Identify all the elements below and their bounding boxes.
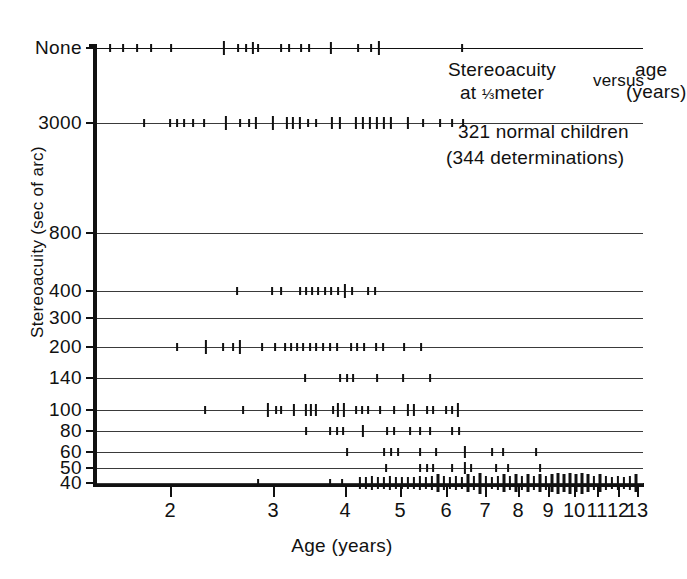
data-mark [403,343,405,351]
data-mark [629,476,631,491]
data-mark [176,119,178,127]
x-axis-tick-label: 4 [325,500,365,520]
data-mark [425,477,427,488]
data-mark [377,477,379,488]
data-mark [464,446,466,457]
data-mark [385,464,387,472]
data-mark [623,477,625,488]
data-mark [462,119,464,127]
data-mark [395,477,397,488]
x-axis-tick [273,487,275,497]
data-mark [563,474,566,492]
data-mark [337,403,339,418]
data-mark [458,427,460,435]
data-mark [386,427,388,435]
x-axis-tick-label: 5 [380,500,420,520]
data-mark [205,340,207,355]
data-mark [336,343,338,351]
data-mark [329,343,331,351]
data-mark [296,343,298,351]
data-mark [355,117,357,128]
data-mark [599,474,602,492]
data-mark [485,476,487,491]
data-mark [292,117,294,128]
chart-title-block: Stereoacuity at ⅓meter versus age (years… [430,58,680,104]
x-axis-tick [518,487,520,497]
y-axis-tick-label: 80 [60,421,82,440]
gridline-row [96,318,643,319]
data-mark [509,476,511,491]
data-mark [378,41,380,56]
x-axis-tick-label: 2 [150,500,190,520]
data-mark [429,427,431,435]
data-mark [382,343,384,351]
data-mark [461,44,463,52]
data-mark [451,119,453,127]
data-mark [362,425,364,436]
title-fraction-third: ⅓ [482,85,495,102]
data-mark [239,119,241,127]
data-mark [569,473,572,494]
data-mark [136,44,138,52]
data-mark [280,44,282,52]
data-mark [329,427,331,435]
y-axis-tick [86,122,97,124]
data-mark [143,119,145,127]
data-mark [435,448,437,456]
data-mark [443,476,445,491]
data-mark [248,119,250,127]
data-mark [451,427,453,435]
data-mark [261,343,263,351]
data-mark [315,343,317,351]
gridline-row [96,291,643,292]
y-axis-tick [86,377,97,379]
data-mark [342,427,344,435]
data-mark [497,476,499,491]
data-mark [375,343,377,351]
data-mark [293,404,295,415]
data-mark [557,473,560,494]
data-mark [290,343,292,351]
data-mark [275,406,277,414]
data-mark [344,284,346,299]
gridline-row [96,410,643,411]
data-mark [551,474,554,492]
data-mark [245,44,247,52]
data-mark [575,474,578,492]
data-mark [479,473,482,494]
data-mark [310,404,312,415]
y-axis-tick-label: 140 [49,368,82,387]
data-mark [503,474,506,492]
data-mark [359,477,361,488]
data-mark [305,287,307,295]
data-mark [426,464,428,472]
data-mark [330,287,332,295]
data-mark [426,406,428,414]
data-mark [437,474,440,492]
data-mark [407,404,409,415]
title-main-line: Stereoacuity at ⅓meter versus age (years… [430,58,680,104]
data-mark [223,41,225,56]
data-mark [593,476,595,491]
data-mark [611,477,613,488]
data-mark [390,448,392,456]
data-mark [439,119,441,127]
y-axis-tick-label: 800 [49,223,82,242]
data-mark [271,287,273,295]
data-mark [365,477,367,488]
data-mark [317,287,319,295]
data-mark [315,119,317,127]
data-mark [402,374,404,382]
y-axis-tick-label: 40 [60,473,82,492]
y-axis-tick-label: 400 [49,281,82,300]
data-mark [383,477,385,488]
data-mark [422,119,424,127]
data-mark [272,116,274,131]
data-mark [491,477,493,488]
data-mark [369,117,371,128]
data-mark [343,403,345,418]
gridline-row [96,468,643,469]
data-mark [457,403,459,418]
data-mark [332,406,334,414]
data-mark [390,117,392,128]
